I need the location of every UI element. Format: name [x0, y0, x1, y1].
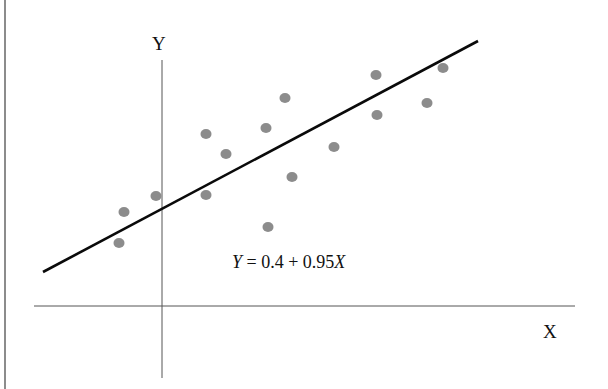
data-point	[280, 93, 291, 103]
data-point	[371, 70, 382, 80]
data-point	[221, 149, 232, 159]
data-point	[114, 238, 125, 248]
equation-body: = 0.4 + 0.95	[242, 252, 334, 272]
data-point	[263, 222, 274, 232]
scatter-plot	[0, 0, 608, 389]
equation-x: X	[334, 252, 345, 272]
data-point	[201, 190, 212, 200]
equation-y: Y	[232, 252, 242, 272]
x-axis-label: X	[543, 322, 557, 341]
data-point	[422, 98, 433, 108]
data-point	[119, 207, 130, 217]
data-points	[114, 63, 449, 248]
data-point	[201, 129, 212, 139]
data-point	[287, 172, 298, 182]
data-point	[261, 123, 272, 133]
data-point	[372, 110, 383, 120]
data-point	[151, 191, 162, 201]
regression-line	[43, 41, 478, 272]
y-axis-label: Y	[152, 34, 166, 53]
data-point	[329, 142, 340, 152]
data-point	[438, 63, 449, 73]
regression-equation: Y = 0.4 + 0.95X	[232, 253, 345, 271]
